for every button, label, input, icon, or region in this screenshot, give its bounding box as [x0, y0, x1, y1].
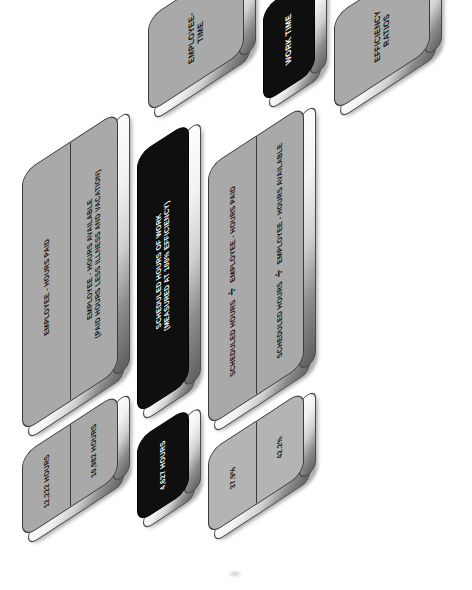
header-label-line1: WORK TIME	[284, 11, 293, 67]
value-text: 37.9%	[228, 465, 235, 491]
value-text: 12,222 HOURS	[42, 453, 49, 510]
division-icon: ÷	[270, 262, 285, 285]
header-block-work-time[interactable]: WORK TIME	[263, 0, 315, 104]
definition-block-work-time[interactable]: SCHEDULED HOURS OF WORK (MEASURED AT 100…	[137, 121, 189, 415]
header-label-line1: EFFICIENCY	[373, 8, 382, 65]
definition-block-efficiency-ratios[interactable]: SCHEDULED HOURS ÷ EMPLOYEE - HOURS PAID …	[208, 105, 304, 427]
page-footer-mark	[228, 570, 242, 578]
value-text: 10,982 HOURS	[89, 422, 96, 479]
definition-label: EMPLOYEE - HOURS AVAILABLE	[85, 197, 92, 322]
division-icon: ÷	[223, 280, 238, 303]
definition-sublabel: (MEASURED AT 100% EFFICIENCY)	[163, 199, 170, 332]
ratio-denominator: EMPLOYEE - HOURS AVAILABLE	[275, 142, 282, 267]
ratio-numerator: SCHEDULED HOURS	[228, 298, 235, 379]
definition-cell-ratio-available[interactable]: SCHEDULED HOURS ÷ EMPLOYEE - HOURS AVAIL…	[256, 106, 303, 395]
definition-cell-employee-hours-paid[interactable]: EMPLOYEE - HOURS PAID	[23, 143, 70, 432]
value-text: 42.2%	[275, 435, 282, 461]
definition-cell-ratio-paid[interactable]: SCHEDULED HOURS ÷ EMPLOYEE - HOURS PAID	[209, 137, 256, 426]
definition-sublabel: (PAID HOURS LESS ILLNESS AND VACATION)	[94, 168, 101, 340]
definition-cell-scheduled-hours-of-work[interactable]: SCHEDULED HOURS OF WORK (MEASURED AT 100…	[138, 123, 188, 413]
ratio-denominator: EMPLOYEE - HOURS PAID	[228, 184, 235, 284]
value-text: 4,627 HOURS	[159, 439, 166, 492]
definition-cell-employee-hours-available[interactable]: EMPLOYEE - HOURS AVAILABLE (PAID HOURS L…	[70, 112, 117, 401]
value-block-work-time[interactable]: 4,627 HOURS	[137, 406, 189, 524]
header-label-line2: RATIOS	[382, 11, 391, 49]
definition-block-employee-time[interactable]: EMPLOYEE - HOURS PAID EMPLOYEE - HOURS A…	[22, 111, 118, 433]
ratio-numerator: SCHEDULED HOURS	[275, 280, 282, 361]
header-label-line1: EMPLOYEE-	[187, 10, 196, 66]
header-block-employee-time[interactable]: EMPLOYEE- TIME	[148, 0, 244, 114]
header-label-line2: TIME	[196, 19, 205, 45]
diagram-canvas: EMPLOYEE- TIME WORK TIME EFFICIENCY	[0, 0, 472, 590]
header-block-efficiency-ratios[interactable]: EFFICIENCY RATIOS	[334, 0, 430, 112]
definition-label: EMPLOYEE - HOURS PAID	[42, 237, 49, 337]
definition-label: SCHEDULED HOURS OF WORK	[155, 212, 162, 331]
